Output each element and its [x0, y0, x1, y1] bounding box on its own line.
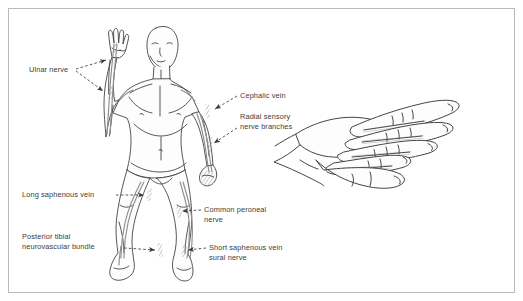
label-posterior-tibial-line2: neurovascular bundle: [22, 242, 95, 251]
label-common-peroneal-line1: Common peroneal: [204, 205, 267, 214]
figure-background: [0, 0, 523, 301]
label-long-saphenous-vein: Long saphenous vein: [22, 190, 94, 199]
anatomy-figure: Ulnar nerve Cephalic vein Radial sensory…: [0, 0, 523, 301]
marker-ulnar-elbow: [109, 86, 113, 99]
marker-cephalic: [206, 104, 210, 118]
head-outline: [147, 26, 178, 69]
label-posterior-tibial-line1: Posterior tibial: [22, 232, 71, 241]
label-common-peroneal-line2: nerve: [204, 215, 223, 224]
label-radial-sensory-line1: Radial sensory: [240, 112, 290, 121]
label-radial-sensory-line2: nerve branches: [240, 122, 293, 131]
label-ulnar-nerve: Ulnar nerve: [29, 65, 68, 74]
marker-ulnar-wrist: [113, 41, 117, 53]
label-short-saphenous-line2: sural nerve: [209, 253, 247, 262]
marker-radial-sensory: [208, 136, 212, 152]
label-short-saphenous-line1: Short saphenous vein: [209, 243, 283, 252]
neck-outline: [153, 66, 170, 80]
label-cephalic-vein: Cephalic vein: [240, 91, 286, 100]
